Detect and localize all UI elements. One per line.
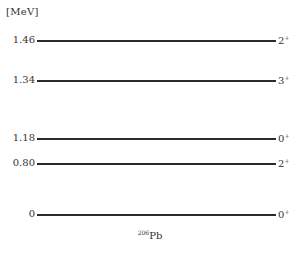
energy-value: 1.46: [13, 34, 35, 45]
energy-level-0-80: 0.80 2+: [0, 158, 300, 170]
level-line: [37, 80, 276, 82]
energy-level-1-18: 1.18 0+: [0, 133, 300, 145]
level-line: [37, 163, 276, 165]
spin-parity-label: 3+: [278, 74, 289, 86]
energy-level-1-34: 1.34 3+: [0, 75, 300, 87]
level-line: [37, 138, 276, 140]
level-line: [37, 40, 276, 42]
spin-parity-label: 0+: [278, 208, 289, 220]
spin-parity-label: 2+: [278, 157, 289, 169]
energy-value: 1.18: [13, 132, 35, 143]
spin-parity-label: 0+: [278, 132, 289, 144]
nuclide-label: 206Pb: [0, 229, 300, 241]
energy-level-1-46: 1.46 2+: [0, 35, 300, 47]
energy-value: 0.80: [13, 157, 35, 168]
energy-value: 0: [29, 208, 35, 219]
level-line: [37, 214, 276, 216]
energy-level-ground: 0 0+: [0, 209, 300, 221]
unit-label: [MeV]: [6, 6, 39, 17]
spin-parity-label: 2+: [278, 34, 289, 46]
energy-value: 1.34: [13, 74, 35, 85]
